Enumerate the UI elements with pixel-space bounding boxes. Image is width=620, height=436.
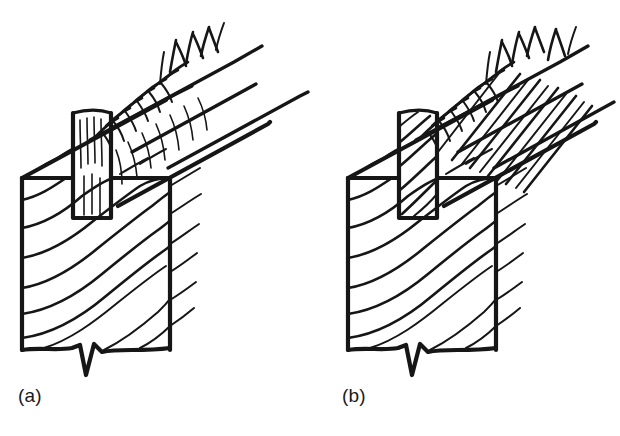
joint-diagram-svg <box>0 0 620 436</box>
panel-a-post-grain <box>22 178 170 350</box>
figure-container: (a) (b) <box>0 0 620 436</box>
panel-b-post-right-ticks <box>496 168 527 326</box>
panel-b-brace-end-spikes <box>486 27 576 84</box>
panel-b-post-grain <box>348 178 496 350</box>
panel-a-post-right-ticks <box>170 168 201 326</box>
panel-a-post-top-ticks <box>34 148 166 174</box>
panel-a-brace-outline <box>22 46 308 206</box>
panel-b-drawing <box>348 27 614 375</box>
panel-a-drawing <box>22 23 308 375</box>
